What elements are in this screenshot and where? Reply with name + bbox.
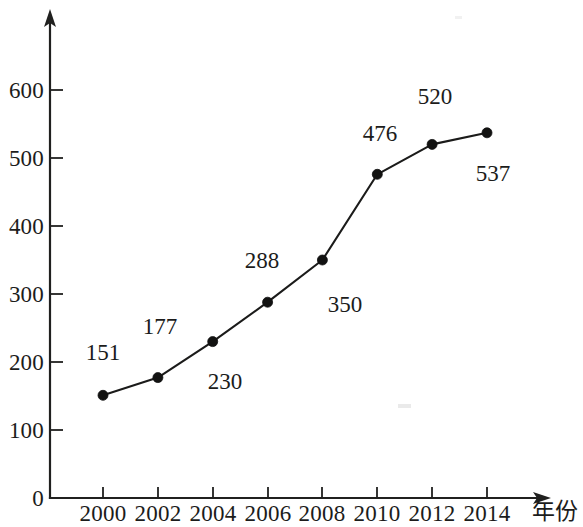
value-label-2002: 177 — [143, 314, 178, 339]
x-tick-label-2002: 2002 — [135, 501, 182, 526]
scan-artifact-speck — [398, 404, 411, 408]
value-label-2010: 476 — [363, 121, 398, 146]
y-tick-label-500: 500 — [9, 146, 44, 171]
data-point-2000 — [98, 390, 108, 400]
x-tick-label-2014: 2014 — [464, 501, 511, 526]
value-label-2004: 230 — [208, 369, 243, 394]
y-tick-label-200: 200 — [9, 350, 44, 375]
line-chart: 0 100 200 300 400 500 600 2000 2002 2004… — [0, 0, 583, 527]
y-axis-tick-labels: 0 100 200 300 400 500 600 — [9, 78, 44, 511]
data-point-2008 — [317, 255, 327, 265]
data-value-labels: 151 177 230 288 350 476 520 537 — [86, 84, 511, 394]
y-axis-ticks — [50, 90, 63, 430]
x-axis-title: 年份 — [532, 499, 578, 524]
data-point-2010 — [372, 169, 382, 179]
y-tick-label-600: 600 — [9, 78, 44, 103]
x-axis-tick-labels: 2000 2002 2004 2006 2008 2010 2012 2014 — [80, 501, 511, 526]
x-tick-label-2012: 2012 — [409, 501, 456, 526]
x-tick-label-2006: 2006 — [245, 501, 292, 526]
x-tick-label-2010: 2010 — [354, 501, 401, 526]
y-tick-label-0: 0 — [32, 486, 44, 511]
y-tick-label-400: 400 — [9, 214, 44, 239]
value-label-2000: 151 — [86, 340, 121, 365]
data-point-2012 — [427, 139, 437, 149]
data-series-line — [103, 133, 487, 396]
x-axis-ticks — [103, 487, 487, 498]
x-tick-label-2000: 2000 — [80, 501, 127, 526]
data-point-markers — [98, 128, 492, 401]
x-tick-label-2008: 2008 — [299, 501, 346, 526]
x-tick-label-2004: 2004 — [190, 501, 237, 526]
data-point-2014 — [482, 128, 492, 138]
value-label-2008: 350 — [328, 292, 363, 317]
data-point-2002 — [153, 373, 163, 383]
chart-page: 0 100 200 300 400 500 600 2000 2002 2004… — [0, 0, 583, 527]
value-label-2012: 520 — [418, 84, 453, 109]
scan-artifact-speck-2 — [455, 16, 462, 19]
data-point-2004 — [208, 337, 218, 347]
value-label-2014: 537 — [476, 161, 511, 186]
data-point-2006 — [263, 297, 273, 307]
y-tick-label-300: 300 — [9, 282, 44, 307]
value-label-2006: 288 — [245, 248, 280, 273]
y-tick-label-100: 100 — [9, 418, 44, 443]
